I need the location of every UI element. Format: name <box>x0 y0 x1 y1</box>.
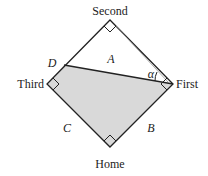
label-angle-alpha: α <box>148 67 155 81</box>
label-point-d: D <box>47 56 57 70</box>
angle-arc <box>155 72 157 81</box>
thin-line <box>113 23 168 82</box>
label-third: Third <box>17 77 44 91</box>
label-region-a: A <box>106 52 115 66</box>
right-angle-second <box>104 20 116 32</box>
label-first: First <box>176 77 199 91</box>
label-side-c: C <box>63 121 72 135</box>
label-home: Home <box>95 157 124 171</box>
label-second: Second <box>92 4 127 18</box>
label-side-b: B <box>147 121 155 135</box>
baseball-diamond-diagram: Second First Third Home D A B C α <box>0 0 208 176</box>
